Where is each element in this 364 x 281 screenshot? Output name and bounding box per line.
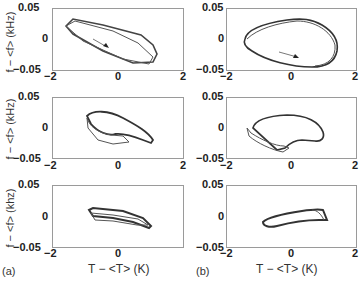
y-tick: 0.05 xyxy=(202,90,223,102)
loop-trace xyxy=(53,98,185,160)
loop-trace xyxy=(227,186,358,249)
x-tick: 2 xyxy=(180,70,186,82)
x-tick: 2 xyxy=(352,247,358,259)
loop-trace xyxy=(53,186,185,249)
loop-trace xyxy=(227,9,358,72)
y-tick: 0 xyxy=(218,121,224,133)
y-tick: 0 xyxy=(42,121,48,133)
plot-area xyxy=(52,185,184,248)
x-tick: −2 xyxy=(44,247,57,259)
y-tick: 0.05 xyxy=(18,1,39,13)
y-tick: 0.05 xyxy=(18,178,39,190)
plot-area xyxy=(226,97,357,159)
y-tick: 0 xyxy=(42,32,48,44)
y-tick: −0.05 xyxy=(13,241,41,253)
y-tick: 0.05 xyxy=(18,90,39,102)
x-axis-label: T − <T> (K) xyxy=(256,262,317,276)
x-tick: −2 xyxy=(44,159,57,171)
x-tick: −2 xyxy=(220,70,233,82)
x-tick: −2 xyxy=(220,159,233,171)
x-tick: 2 xyxy=(352,70,358,82)
plot-area xyxy=(52,97,184,159)
plot-area xyxy=(52,8,184,71)
y-tick: 0.05 xyxy=(202,178,223,190)
x-tick: −2 xyxy=(220,247,233,259)
x-tick: 2 xyxy=(180,159,186,171)
y-tick: 0 xyxy=(42,210,48,222)
y-tick: 0 xyxy=(218,32,224,44)
y-tick: 0 xyxy=(218,210,224,222)
loop-trace xyxy=(53,9,185,72)
x-tick: 0 xyxy=(115,159,121,171)
x-axis-label: T − <T> (K) xyxy=(88,262,149,276)
x-tick: 0 xyxy=(288,247,294,259)
x-tick: −2 xyxy=(44,70,57,82)
x-tick: 0 xyxy=(115,70,121,82)
x-tick: 0 xyxy=(115,247,121,259)
loop-trace xyxy=(227,98,358,160)
plot-area xyxy=(226,8,357,71)
y-tick: 0.05 xyxy=(202,1,223,13)
panel-label-b: (b) xyxy=(196,265,209,277)
y-tick: −0.05 xyxy=(13,152,41,164)
plot-area xyxy=(226,185,357,248)
panel-label-a: (a) xyxy=(2,265,15,277)
y-tick: −0.05 xyxy=(13,63,41,75)
x-tick: 0 xyxy=(288,159,294,171)
x-tick: 0 xyxy=(288,70,294,82)
x-tick: 2 xyxy=(352,159,358,171)
